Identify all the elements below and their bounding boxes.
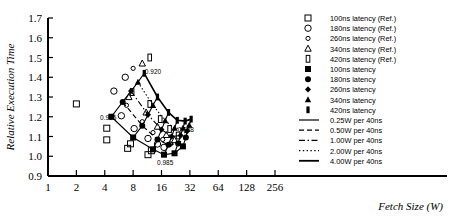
data-annotation: 0.988 xyxy=(178,126,195,133)
reference-point-marker xyxy=(111,88,117,94)
legend-entry-label: 100ns latency (Ref.) xyxy=(330,14,396,23)
data-point-marker xyxy=(190,116,193,123)
reference-point-marker xyxy=(104,137,110,143)
legend-marker-sample xyxy=(306,36,310,40)
chart-canvas: 0.91.01.11.21.31.41.51.61.71248163264128… xyxy=(0,0,457,220)
x-tick-label: 256 xyxy=(267,181,284,193)
data-point-marker xyxy=(120,99,126,105)
reference-point-marker xyxy=(122,74,128,80)
y-tick-label: 0.9 xyxy=(28,170,42,182)
y-tick-label: 1.6 xyxy=(28,32,42,44)
x-axis-title: Fetch Size (W) xyxy=(377,200,443,213)
reference-point-marker xyxy=(131,125,137,131)
reference-point-marker xyxy=(104,125,110,131)
legend-entry-label: 420ns latency xyxy=(330,106,376,115)
x-tick-label: 2 xyxy=(74,181,80,193)
reference-point-marker xyxy=(158,116,162,123)
legend-marker-sample xyxy=(305,66,311,72)
legend-entry-label: 100ns latency xyxy=(330,65,376,74)
y-tick-label: 1.7 xyxy=(28,12,42,24)
reference-point-marker xyxy=(145,135,151,141)
legend-entry-label: 180ns latency (Ref.) xyxy=(330,24,396,33)
y-tick-label: 1.2 xyxy=(28,111,42,123)
data-point-marker xyxy=(166,142,172,148)
legend-entry-label: 260ns latency xyxy=(330,85,376,94)
x-tick-label: 16 xyxy=(156,181,168,193)
data-point-marker xyxy=(154,136,160,142)
data-point-marker xyxy=(130,134,136,140)
data-point-marker xyxy=(184,118,187,125)
y-tick-label: 1.1 xyxy=(28,131,42,143)
data-point-marker xyxy=(172,150,178,156)
legend-entry-label: 260ns latency (Ref.) xyxy=(330,34,396,43)
data-point-marker xyxy=(156,94,159,101)
legend-marker-sample xyxy=(305,45,311,51)
legend-marker-sample xyxy=(305,76,311,82)
x-tick-label: 32 xyxy=(184,181,195,193)
iso-power-curve xyxy=(133,97,157,137)
x-tick-label: 1 xyxy=(45,181,51,193)
data-point-marker xyxy=(176,117,179,124)
data-annotation: 0.920 xyxy=(145,68,162,75)
legend-marker-sample xyxy=(305,15,311,21)
data-annotation: 0.935 xyxy=(100,114,117,121)
chart-figure: 0.91.01.11.21.31.41.51.61.71248163264128… xyxy=(0,0,457,220)
reference-point-marker xyxy=(73,101,79,107)
data-point-marker xyxy=(150,102,156,108)
x-tick-label: 128 xyxy=(238,181,255,193)
legend-entry-label: 180ns latency xyxy=(330,75,376,84)
data-point-marker xyxy=(150,146,156,152)
legend-marker-sample xyxy=(305,25,311,31)
x-tick-label: 64 xyxy=(213,181,225,193)
legend-entry-label: 4.00W per 40ns xyxy=(330,157,382,166)
legend-marker-sample xyxy=(305,96,311,102)
reference-point-marker xyxy=(168,126,172,133)
legend-entry-label: 2.00W per 40ns xyxy=(330,147,382,156)
legend-entry-label: 420ns latency (Ref.) xyxy=(330,55,396,64)
y-tick-label: 1.0 xyxy=(28,150,42,162)
y-tick-label: 1.3 xyxy=(28,91,42,103)
legend-entry-label: 340ns latency (Ref.) xyxy=(330,45,396,54)
reference-point-marker xyxy=(118,113,124,119)
legend-marker-sample xyxy=(306,106,309,113)
legend-entry-label: 1.00W per 40ns xyxy=(330,136,382,145)
reference-point-marker xyxy=(148,54,152,61)
data-point-marker xyxy=(167,109,170,116)
data-point-marker xyxy=(161,152,167,158)
reference-point-marker xyxy=(131,66,135,70)
data-point-marker xyxy=(183,134,189,140)
legend-marker-sample xyxy=(306,55,310,62)
x-tick-label: 4 xyxy=(102,181,108,193)
data-point-marker xyxy=(175,140,181,146)
legend-entry-label: 0.25W per 40ns xyxy=(330,116,382,125)
y-axis-title: Relative Execution Time xyxy=(4,43,16,151)
legend-entry-label: 340ns latency xyxy=(330,96,376,105)
x-tick-label: 8 xyxy=(130,181,136,193)
y-tick-label: 1.4 xyxy=(28,71,42,83)
reference-point-marker xyxy=(151,130,155,134)
legend-marker-sample xyxy=(305,86,311,92)
reference-point-marker xyxy=(139,60,145,66)
y-tick-label: 1.5 xyxy=(28,52,42,64)
data-point-marker xyxy=(178,132,184,138)
data-point-marker xyxy=(139,123,145,129)
data-annotation: 0.985 xyxy=(157,159,174,166)
legend-entry-label: 0.50W per 40ns xyxy=(330,126,382,135)
